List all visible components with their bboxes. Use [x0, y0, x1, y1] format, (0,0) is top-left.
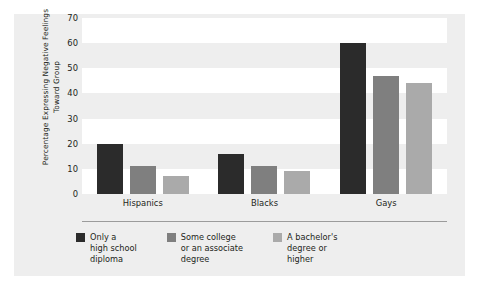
y-tick-label: 60 [50, 38, 78, 48]
y-tick-label: 40 [50, 88, 78, 98]
bar [163, 176, 189, 194]
y-tick-label: 50 [50, 63, 78, 73]
bar [284, 171, 310, 194]
legend-swatch-icon [273, 233, 282, 242]
bar [218, 154, 244, 194]
plot-area [82, 18, 447, 194]
x-category-label: Blacks [214, 198, 314, 212]
legend-item: Some college or an associate degree [167, 232, 243, 265]
legend-divider [82, 221, 447, 222]
y-tick-label: 0 [50, 189, 78, 199]
chart-figure: Percentage Expressing Negative Feelings … [14, 14, 465, 276]
x-axis-category-labels: HispanicsBlacksGays [82, 198, 447, 212]
legend-label: Some college or an associate degree [181, 232, 243, 265]
bar [251, 166, 277, 194]
legend-swatch-icon [76, 233, 85, 242]
chart-legend: Only a high school diplomaSome college o… [76, 232, 337, 265]
bar [373, 76, 399, 194]
bar [97, 144, 123, 194]
bar-group [218, 18, 310, 194]
legend-item: Only a high school diploma [76, 232, 137, 265]
legend-swatch-icon [167, 233, 176, 242]
y-tick-label: 20 [50, 139, 78, 149]
bar-group [340, 18, 432, 194]
x-category-label: Hispanics [93, 198, 193, 212]
bar [406, 83, 432, 194]
y-tick-label: 70 [50, 13, 78, 23]
bar [340, 43, 366, 194]
bar-groups [82, 18, 447, 194]
bar-group [97, 18, 189, 194]
y-tick-label: 10 [50, 164, 78, 174]
legend-item: A bachelor's degree or higher [273, 232, 337, 265]
bar [130, 166, 156, 194]
y-tick-label: 30 [50, 114, 78, 124]
y-axis-tick-labels: 010203040506070 [50, 18, 78, 194]
legend-label: Only a high school diploma [90, 232, 137, 265]
x-category-label: Gays [336, 198, 436, 212]
legend-label: A bachelor's degree or higher [287, 232, 337, 265]
